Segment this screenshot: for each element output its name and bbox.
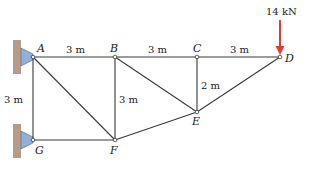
- members: [33, 57, 280, 140]
- dim-bf: 3 m: [119, 94, 139, 105]
- joint-c: [195, 55, 199, 59]
- joint-label-b: B: [109, 42, 118, 55]
- dim-ab: 3 m: [66, 44, 86, 55]
- member-af: [33, 57, 115, 140]
- load-arrow-icon: [276, 46, 285, 55]
- joint-b: [113, 55, 117, 59]
- dim-bc: 3 m: [148, 44, 168, 55]
- wall-g: [13, 124, 21, 158]
- joint-e: [195, 110, 199, 114]
- load-label: 14 kN: [266, 6, 297, 17]
- joint-d: [278, 55, 282, 59]
- wall-a: [13, 40, 21, 74]
- joint-label-f: F: [109, 144, 118, 157]
- joint-label-g: G: [35, 144, 44, 157]
- joint-label-e: E: [191, 115, 200, 128]
- joint-label-d: D: [284, 52, 294, 65]
- dim-ag: 3 m: [4, 94, 24, 105]
- joint-a: [31, 55, 35, 59]
- dim-cd: 3 m: [230, 44, 250, 55]
- joint-label-a: A: [36, 42, 45, 55]
- truss-diagram: A B C D E F G 3 m 3 m 3 m 3 m 3 m 2 m 14…: [0, 0, 309, 172]
- member-fe: [115, 112, 197, 140]
- joint-g: [31, 138, 35, 142]
- joint-f: [113, 138, 117, 142]
- dim-ce: 2 m: [201, 80, 221, 91]
- joint-label-c: C: [193, 42, 202, 55]
